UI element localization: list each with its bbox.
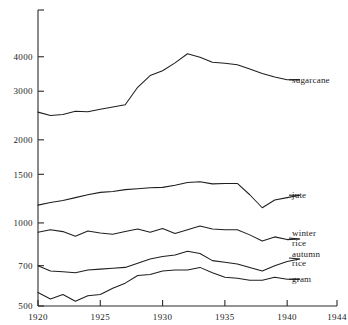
x-tick-label-1920: 1920 — [28, 312, 48, 322]
series-line-autumn-rice — [38, 251, 300, 273]
series-label-autumn-rice-line2: rice — [292, 258, 306, 268]
series-line-sugarcane — [38, 54, 300, 116]
x-tick-label-1930: 1930 — [153, 312, 173, 322]
y-tick-label-2000: 2000 — [13, 135, 33, 145]
series-label-winter-rice-line2: rice — [292, 238, 306, 248]
series-line-winter-rice — [38, 226, 300, 241]
x-tick-label-1940: 1940 — [277, 312, 297, 322]
y-tick-label-3000: 3000 — [13, 86, 33, 96]
line-chart: 5007001000150020003000400019201925193019… — [0, 0, 348, 325]
series-line-jute — [38, 182, 300, 208]
y-tick-label-700: 700 — [18, 261, 33, 271]
x-tick-label-1935: 1935 — [215, 312, 235, 322]
series-label-winter-rice-line1: winter — [292, 228, 316, 238]
chart-canvas: 5007001000150020003000400019201925193019… — [0, 0, 348, 325]
series-label-gram: gram — [292, 274, 311, 284]
series-label-jute: jute — [291, 190, 306, 200]
y-tick-label-1500: 1500 — [13, 170, 33, 180]
y-tick-label-4000: 4000 — [13, 52, 33, 62]
x-tick-label-1944: 1944 — [327, 312, 347, 322]
y-tick-label-500: 500 — [18, 301, 33, 311]
series-label-autumn-rice-line1: autumn — [292, 249, 320, 259]
series-label-sugarcane: sugarcane — [292, 75, 330, 85]
x-tick-label-1925: 1925 — [90, 312, 110, 322]
y-tick-label-1000: 1000 — [13, 218, 33, 228]
